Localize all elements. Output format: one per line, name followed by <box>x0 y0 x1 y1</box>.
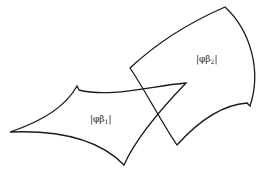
region-2-label: |φβ2| <box>196 54 217 65</box>
region-1-label: |φβ1| <box>90 114 111 125</box>
region-1-boundary <box>10 83 186 165</box>
diagram-canvas: |φβ1| |φβ2| <box>0 0 264 172</box>
region-2-boundary <box>130 7 255 145</box>
